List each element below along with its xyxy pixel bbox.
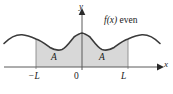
x-tick-label-positive-l: L — [121, 72, 126, 82]
area-label-left: A — [51, 53, 57, 63]
function-property: even — [120, 15, 138, 25]
function-argument: (x) — [107, 15, 118, 25]
area-label-right: A — [99, 53, 105, 63]
y-axis-label: y — [79, 2, 83, 11]
x-axis-label: x — [164, 60, 168, 69]
x-tick-label-negative-l: −L — [28, 72, 40, 82]
function-property-label: f(x) even — [104, 16, 138, 26]
even-function-figure: y x −L 0 L A A f(x) even — [0, 0, 173, 94]
figure-canvas — [0, 0, 173, 94]
x-axis-arrowhead — [157, 64, 164, 71]
x-tick-label-origin: 0 — [74, 72, 79, 82]
